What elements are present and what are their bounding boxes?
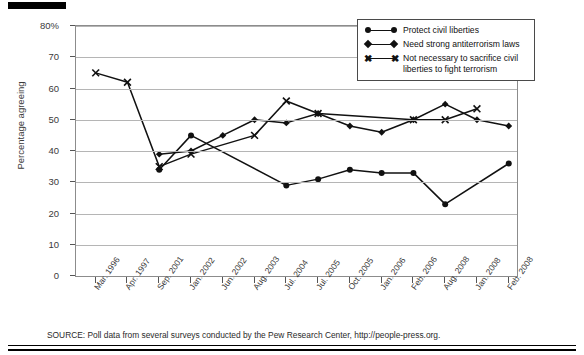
data-point-circle bbox=[442, 201, 448, 207]
data-point-circle bbox=[283, 182, 289, 188]
data-point-circle bbox=[379, 170, 385, 176]
legend-item-protect-civil-liberties[interactable]: Protect civil liberties bbox=[364, 25, 528, 36]
data-point-circle bbox=[347, 167, 353, 173]
y-tick-label: 60 bbox=[0, 82, 59, 93]
legend-item-label: Need strong antiterrorism laws bbox=[403, 39, 528, 50]
data-point-diamond bbox=[442, 101, 449, 108]
legend-item-need-strong-antiterrorism-laws[interactable]: Need strong antiterrorism laws bbox=[364, 39, 528, 50]
y-tick-label: 50 bbox=[0, 113, 59, 124]
source-note: SOURCE: Poll data from several surveys c… bbox=[47, 330, 440, 340]
legend-item-label: Protect civil liberties bbox=[403, 25, 528, 36]
data-point-circle bbox=[410, 170, 416, 176]
legend-item-not-necessary-to-sacrifice[interactable]: ✖ ✖ Not necessary to sacrifice civil lib… bbox=[364, 53, 528, 74]
gridline bbox=[76, 182, 517, 183]
data-point-diamond bbox=[378, 129, 385, 136]
y-tick-label: 10 bbox=[0, 238, 59, 249]
series-line bbox=[159, 135, 509, 204]
data-point-circle bbox=[188, 132, 194, 138]
diamond-line-marker-icon bbox=[364, 39, 398, 50]
x-axis: Mar. 1996Apr. 1997Sep. 2001Jan. 2002Jun.… bbox=[0, 277, 584, 337]
y-tick-label: 20 bbox=[0, 207, 59, 218]
y-tick-label: 40 bbox=[0, 145, 59, 156]
data-point-circle bbox=[506, 161, 512, 167]
data-point-diamond bbox=[219, 132, 226, 139]
chart-figure: Percentage agreeing 01020304050607080% M… bbox=[0, 0, 584, 355]
gridline bbox=[76, 151, 517, 152]
data-point-x bbox=[283, 98, 290, 105]
y-tick-label: 80% bbox=[0, 20, 59, 31]
gridline bbox=[76, 245, 517, 246]
gridline bbox=[76, 214, 517, 215]
circle-line-marker-icon bbox=[364, 25, 398, 36]
gridline bbox=[76, 120, 517, 121]
legend-item-label: Not necessary to sacrifice civil liberti… bbox=[403, 53, 528, 74]
data-point-diamond bbox=[346, 123, 353, 130]
y-tick-label: 30 bbox=[0, 176, 59, 187]
data-point-circle bbox=[315, 176, 321, 182]
chart-legend: Protect civil liberties Need strong anti… bbox=[357, 19, 535, 81]
bottom-rule-decoration bbox=[8, 345, 576, 351]
gridline bbox=[76, 89, 517, 90]
x-line-marker-icon: ✖ ✖ bbox=[364, 53, 398, 64]
y-tick-label: 70 bbox=[0, 51, 59, 62]
data-point-x bbox=[474, 105, 481, 112]
data-point-diamond bbox=[505, 123, 512, 130]
